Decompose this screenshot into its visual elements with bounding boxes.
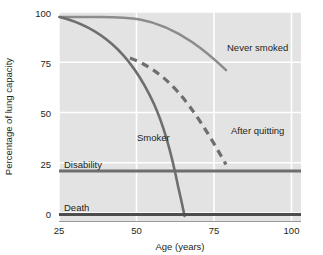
y-tick-label-50: 50	[40, 108, 51, 119]
y-tick-label-0: 0	[46, 209, 51, 220]
annotation-death: Death	[64, 202, 89, 213]
y-tick-label-25: 25	[40, 159, 51, 170]
y-tick-label-75: 75	[40, 58, 51, 69]
x-tick-label-25: 25	[54, 225, 65, 236]
lung-capacity-chart: 100 75 50 25 0 25 50 75 100 Age (years) …	[0, 0, 323, 255]
chart-canvas: 100 75 50 25 0 25 50 75 100 Age (years) …	[0, 0, 323, 255]
x-tick-label-75: 75	[209, 225, 220, 236]
annotation-smoker: Smoker	[137, 132, 170, 143]
y-axis-title: Percentage of lung capacity	[3, 58, 14, 175]
annotation-never-smoked: Never smoked	[227, 42, 288, 53]
x-axis-title: Age (years)	[155, 241, 204, 252]
x-tick-label-50: 50	[131, 225, 142, 236]
x-tick-label-100: 100	[284, 225, 300, 236]
annotation-after-quitting: After quitting	[231, 125, 284, 136]
y-tick-label-100: 100	[35, 8, 51, 19]
annotation-disability: Disability	[64, 159, 102, 170]
